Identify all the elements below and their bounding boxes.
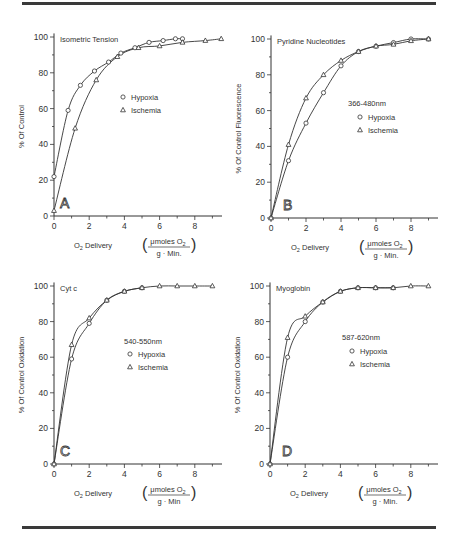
legend-label-hypoxia: Hypoxia	[138, 350, 166, 359]
curve-hypoxia	[271, 39, 429, 218]
curve-ischemia	[54, 39, 221, 211]
panel-d: 02040608010002468% Of Control OxidationO…	[233, 281, 438, 506]
y-tick-label: 20	[39, 175, 49, 185]
y-tick-label: 60	[39, 352, 49, 362]
ischemia-triangle-marker	[304, 95, 309, 99]
hypoxia-circle-marker	[321, 91, 325, 95]
hypoxia-circle-marker	[119, 51, 123, 55]
ischemia-triangle-marker	[121, 107, 126, 111]
y-tick-label: 80	[39, 68, 49, 78]
curve-hypoxia	[54, 39, 182, 177]
x-tick-label: 0	[268, 469, 273, 479]
paren-right: )	[191, 236, 196, 253]
curve-hypoxia	[270, 288, 393, 464]
y-tick-label: 100	[34, 32, 48, 42]
x-tick-label: 8	[408, 469, 413, 479]
paren-right: )	[407, 484, 412, 501]
y-tick-label: 100	[34, 281, 48, 291]
y-tick-label: 100	[251, 34, 265, 44]
panel-c: 02040608010002468% Of Control OxidationO…	[17, 281, 222, 506]
x-tick-label: 8	[192, 221, 197, 231]
y-axis-label: % Of Control Oxidation	[17, 337, 26, 414]
hypoxia-circle-marker	[286, 159, 290, 163]
y-tick-label: 80	[256, 70, 266, 80]
y-tick-label: 0	[260, 213, 265, 223]
unit-denominator: g · Min.	[372, 497, 397, 506]
legend-label-ischemia: Ischemia	[360, 360, 391, 369]
y-tick-label: 60	[256, 106, 266, 116]
hypoxia-circle-marker	[286, 355, 290, 359]
curve-hypoxia	[54, 288, 142, 464]
panel-letter: B	[283, 197, 292, 213]
paren-left: (	[142, 484, 148, 501]
unit-numerator: μmoles O2	[150, 485, 185, 495]
ischemia-triangle-marker	[219, 36, 224, 40]
panel-letter: C	[60, 443, 70, 459]
y-tick-label: 40	[256, 141, 266, 151]
ischemia-triangle-marker	[358, 127, 363, 131]
x-tick-label: 6	[373, 469, 378, 479]
hypoxia-circle-marker	[304, 121, 308, 125]
ischemia-triangle-marker	[285, 335, 290, 339]
ischemia-triangle-marker	[128, 364, 133, 368]
paren-left: (	[359, 238, 365, 255]
x-tick-label: 2	[303, 469, 308, 479]
hypoxia-circle-marker	[303, 320, 307, 324]
legend-label-hypoxia: Hypoxia	[131, 93, 159, 102]
panel-letter: A	[60, 195, 70, 211]
hypoxia-circle-marker	[339, 64, 343, 68]
y-tick-label: 0	[259, 459, 264, 469]
y-tick-label: 40	[255, 388, 265, 398]
x-tick-label: 4	[122, 221, 127, 231]
hypoxia-circle-marker	[92, 69, 96, 73]
hypoxia-circle-marker	[358, 115, 362, 119]
hypoxia-circle-marker	[66, 108, 70, 112]
hypoxia-circle-marker	[161, 38, 165, 42]
y-tick-label: 80	[39, 317, 49, 327]
hypoxia-circle-marker	[106, 60, 110, 64]
y-tick-label: 0	[43, 211, 48, 221]
panel-title: Cyt c	[60, 284, 77, 293]
legend-header: 540-550nm	[124, 337, 162, 346]
panel-title: Myoglobin	[276, 284, 310, 293]
paren-right: )	[408, 238, 413, 255]
hypoxia-circle-marker	[147, 40, 151, 44]
x-axis-label: O2 Delivery	[74, 489, 112, 499]
panel-letter: D	[282, 443, 292, 459]
y-tick-label: 20	[256, 177, 266, 187]
x-tick-label: 0	[52, 469, 57, 479]
curve-ischemia	[54, 286, 212, 464]
curve-ischemia	[270, 286, 428, 464]
unit-numerator: μmoles O2	[367, 239, 402, 249]
x-tick-label: 2	[87, 469, 92, 479]
panel-title: Pyridine Nucleotides	[277, 37, 346, 46]
y-tick-label: 60	[39, 104, 49, 114]
paren-left: (	[142, 236, 148, 253]
legend-label-ischemia: Ischemia	[131, 106, 162, 115]
legend-label-hypoxia: Hypoxia	[360, 347, 388, 356]
legend-label-ischemia: Ischemia	[368, 126, 399, 135]
hypoxia-circle-marker	[70, 357, 74, 361]
x-tick-label: 8	[409, 223, 414, 233]
hypoxia-circle-marker	[87, 321, 91, 325]
unit-denominator: g · Min.	[156, 249, 181, 258]
x-axis-label: O2 Delivery	[290, 489, 328, 499]
unit-denominator: g · Min.	[373, 251, 398, 260]
x-tick-label: 4	[122, 469, 127, 479]
hypoxia-circle-marker	[350, 349, 354, 353]
ischemia-triangle-marker	[69, 342, 74, 346]
hypoxia-circle-marker	[128, 352, 132, 356]
legend-header: 587-620nm	[342, 333, 380, 342]
hypoxia-circle-marker	[121, 95, 125, 99]
unit-numerator: μmoles O2	[366, 485, 401, 495]
hypoxia-circle-marker	[173, 37, 177, 41]
panel-a: 02040608010002468% Of ControlO2 Delivery…	[17, 32, 224, 258]
ischemia-triangle-marker	[339, 58, 344, 62]
legend-label-ischemia: Ischemia	[138, 363, 169, 372]
y-tick-label: 60	[255, 352, 265, 362]
ischemia-triangle-marker	[286, 142, 291, 146]
y-axis-label: % Of Control Fluorescence	[234, 83, 243, 173]
panel-title: Isometric Tension	[60, 35, 118, 44]
y-tick-label: 40	[39, 388, 49, 398]
x-tick-label: 2	[87, 221, 92, 231]
